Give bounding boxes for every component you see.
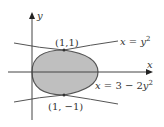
region-diagram: y x (1,1) (1, −1) x = y2 x = 3 − 2y2 bbox=[0, 0, 164, 127]
point-1-neg1 bbox=[63, 94, 66, 97]
y-axis-arrow-icon bbox=[29, 12, 35, 19]
point-label-1-1: (1,1) bbox=[55, 37, 79, 48]
y-axis-label: y bbox=[36, 10, 43, 21]
curve-label-x-3-2y2: x = 3 − 2y2 bbox=[95, 79, 153, 91]
curve-label-x-y2: x = y2 bbox=[120, 35, 151, 47]
x-axis-label: x bbox=[147, 59, 153, 70]
point-label-1-neg1: (1, −1) bbox=[48, 101, 83, 112]
point-1-1 bbox=[63, 49, 66, 52]
